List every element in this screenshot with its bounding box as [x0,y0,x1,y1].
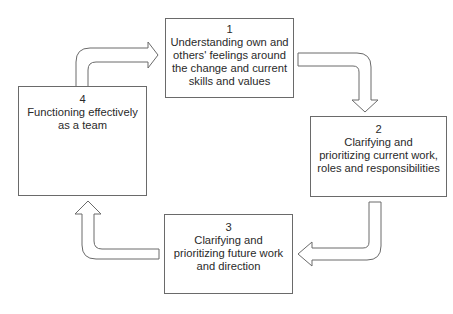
step-4-box: 4 Functioning effectively as a team [18,86,147,196]
step-2-number: 2 [311,123,446,136]
step-2-text-line: prioritizing current work, [311,149,446,162]
step-4-text-line: as a team [19,119,146,132]
step-3-box: 3 Clarifying and prioritizing future wor… [164,214,293,294]
step-3-text-line: prioritizing future work [165,247,292,260]
step-1-text-line: skills and values [166,75,293,88]
step-4-number: 4 [19,93,146,106]
step-1-number: 1 [166,23,293,36]
step-1-text-line: the change and current [166,62,293,75]
step-3-number: 3 [165,221,292,234]
step-1-text-line: Understanding own and [166,36,293,49]
step-3-text-line: Clarifying and [165,234,292,247]
step-2-box: 2 Clarifying and prioritizing current wo… [310,116,447,197]
arrow-2-to-3 [298,202,381,266]
step-2-text-line: roles and responsibilities [311,162,446,175]
step-3-text-line: and direction [165,260,292,273]
step-1-box: 1 Understanding own and others' feelings… [165,18,294,98]
arrow-3-to-4 [75,201,159,259]
step-4-text-line: Functioning effectively [19,106,146,119]
step-2-text-line: Clarifying and [311,136,446,149]
arrow-1-to-2 [298,53,378,112]
step-1-text-line: others' feelings around [166,49,293,62]
